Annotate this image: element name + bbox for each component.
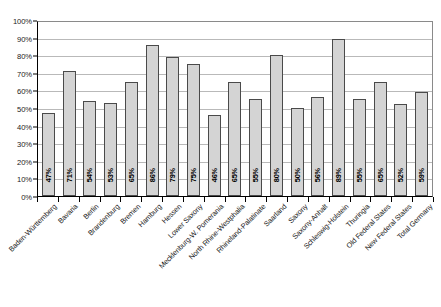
bar[interactable]: 79% xyxy=(166,57,179,196)
bar-value-label: 46% xyxy=(210,168,219,182)
bar[interactable]: 86% xyxy=(146,45,159,196)
bars-container: 47%71%54%53%65%86%79%75%46%65%55%80%50%5… xyxy=(38,22,432,196)
bar-slot: 46% xyxy=(204,22,225,196)
bar-value-label: 59% xyxy=(417,168,426,182)
bar[interactable]: 54% xyxy=(83,101,96,196)
bar-value-label: 86% xyxy=(148,168,157,182)
bar-slot: 59% xyxy=(411,22,432,196)
y-axis-tick-label: 30% xyxy=(17,140,32,149)
bar-slot: 56% xyxy=(308,22,329,196)
bar-slot: 80% xyxy=(266,22,287,196)
bar-slot: 79% xyxy=(162,22,183,196)
y-axis-tick-label: 60% xyxy=(17,87,32,96)
bar[interactable]: 59% xyxy=(415,92,428,196)
bar-slot: 55% xyxy=(349,22,370,196)
bar[interactable]: 52% xyxy=(394,104,407,196)
bar-slot: 55% xyxy=(245,22,266,196)
bar[interactable]: 50% xyxy=(291,108,304,196)
bar-slot: 53% xyxy=(100,22,121,196)
bar-value-label: 47% xyxy=(44,168,53,182)
bar-value-label: 80% xyxy=(272,168,281,182)
bar-value-label: 50% xyxy=(293,168,302,182)
y-axis-tick-label: 20% xyxy=(17,157,32,166)
bar-value-label: 53% xyxy=(106,168,115,182)
bar[interactable]: 47% xyxy=(42,113,55,196)
bar-value-label: 55% xyxy=(355,168,364,182)
bar-value-label: 55% xyxy=(251,168,260,182)
bar-value-label: 75% xyxy=(189,168,198,182)
y-axis-tick-label: 0% xyxy=(21,193,32,202)
bar[interactable]: 65% xyxy=(228,82,241,196)
bar-slot: 47% xyxy=(38,22,59,196)
x-axis-label: Bavaria xyxy=(56,202,79,225)
bar[interactable]: 53% xyxy=(104,103,117,196)
bar-value-label: 65% xyxy=(127,168,136,182)
y-axis-tick-label: 70% xyxy=(17,69,32,78)
y-axis-tick-label: 50% xyxy=(17,105,32,114)
bar[interactable]: 55% xyxy=(353,99,366,196)
y-axis-tick-label: 80% xyxy=(17,52,32,61)
plot-area: 47%71%54%53%65%86%79%75%46%65%55%80%50%5… xyxy=(37,21,433,197)
bar[interactable]: 46% xyxy=(208,115,221,196)
y-axis-tick-label: 90% xyxy=(17,34,32,43)
bar[interactable]: 55% xyxy=(249,99,262,196)
x-axis-tick-mark xyxy=(433,197,434,202)
bar[interactable]: 80% xyxy=(270,55,283,196)
bar-value-label: 65% xyxy=(376,168,385,182)
bar-slot: 65% xyxy=(225,22,246,196)
bar-slot: 89% xyxy=(328,22,349,196)
bar-value-label: 65% xyxy=(230,168,239,182)
y-axis: 0%10%20%30%40%50%60%70%80%90%100% xyxy=(0,0,36,307)
bar-value-label: 54% xyxy=(85,168,94,182)
bar[interactable]: 65% xyxy=(125,82,138,196)
bar-slot: 54% xyxy=(79,22,100,196)
bar-value-label: 79% xyxy=(168,168,177,182)
y-axis-tick-label: 100% xyxy=(13,17,32,26)
bar-slot: 65% xyxy=(370,22,391,196)
bar-slot: 65% xyxy=(121,22,142,196)
bar-slot: 50% xyxy=(287,22,308,196)
bar[interactable]: 75% xyxy=(187,64,200,196)
bar[interactable]: 56% xyxy=(311,97,324,196)
bar-slot: 71% xyxy=(59,22,80,196)
bar[interactable]: 65% xyxy=(374,82,387,196)
bar-value-label: 56% xyxy=(313,168,322,182)
bar-slot: 52% xyxy=(390,22,411,196)
bar[interactable]: 89% xyxy=(332,39,345,196)
y-axis-tick-label: 10% xyxy=(17,175,32,184)
x-axis-labels: Baden-WürttembergBavariaBerlinBrandenbur… xyxy=(37,202,433,307)
y-axis-tick-label: 40% xyxy=(17,122,32,131)
bar-slot: 86% xyxy=(142,22,163,196)
bar-value-label: 71% xyxy=(65,168,74,182)
bar-chart: 0%10%20%30%40%50%60%70%80%90%100% 47%71%… xyxy=(0,0,441,307)
bar-value-label: 89% xyxy=(334,168,343,182)
bar-slot: 75% xyxy=(183,22,204,196)
bar-value-label: 52% xyxy=(396,168,405,182)
bar[interactable]: 71% xyxy=(63,71,76,196)
